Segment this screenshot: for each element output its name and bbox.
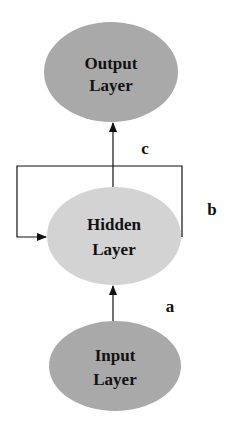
hidden-layer-label-line2: Layer bbox=[92, 240, 136, 259]
output-layer-label-line2: Layer bbox=[89, 76, 133, 95]
hidden-layer-label-line1: Hidden bbox=[87, 215, 141, 234]
edge-a: a bbox=[113, 286, 175, 321]
hidden-layer-ellipse bbox=[47, 187, 181, 285]
rnn-diagram: Output Layer Hidden Layer Input Layer c … bbox=[0, 0, 233, 428]
edge-label-a: a bbox=[166, 297, 175, 316]
hidden-layer-node: Hidden Layer bbox=[47, 187, 181, 285]
input-layer-ellipse bbox=[49, 321, 181, 411]
input-layer-node: Input Layer bbox=[49, 321, 181, 411]
edge-label-c: c bbox=[141, 139, 149, 158]
edge-c: c bbox=[113, 123, 149, 187]
output-layer-node: Output Layer bbox=[44, 22, 178, 122]
input-layer-label-line1: Input bbox=[95, 346, 136, 365]
input-layer-label-line2: Layer bbox=[93, 370, 137, 389]
edge-label-b: b bbox=[207, 200, 216, 219]
output-layer-label-line1: Output bbox=[85, 54, 138, 73]
